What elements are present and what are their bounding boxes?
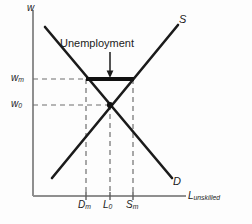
figure-container: w Lunskilled S D wm w0 Dm L0 Sm Unemploy…: [0, 0, 252, 224]
y-tick-label-w0: w0: [11, 99, 22, 110]
supply-curve-label: S: [179, 14, 186, 25]
unemployment-arrow: [107, 52, 114, 78]
y-tick-label-wm-sub: m: [18, 76, 24, 83]
equilibrium-point-marker: [107, 102, 113, 108]
x-tick-label-l0: L0: [103, 200, 112, 211]
x-tick-label-sm-main: S: [126, 199, 133, 210]
x-tick-label-sm-sub: m: [133, 203, 139, 210]
y-axis-label: w: [27, 3, 34, 13]
y-tick-label-w0-sub: 0: [18, 102, 22, 109]
x-tick-label-dm: Dm: [78, 200, 91, 211]
x-axis-label: Lunskilled: [188, 191, 220, 202]
demand-curve-label: D: [173, 176, 181, 187]
unemployment-annotation-label: Unemployment: [60, 38, 134, 49]
x-axis-label-sub: unskilled: [194, 194, 220, 201]
x-tick-label-l0-sub: 0: [109, 203, 113, 210]
x-tick-label-dm-sub: m: [85, 203, 91, 210]
y-tick-label-wm: wm: [11, 73, 24, 84]
x-tick-label-sm: Sm: [126, 200, 138, 211]
